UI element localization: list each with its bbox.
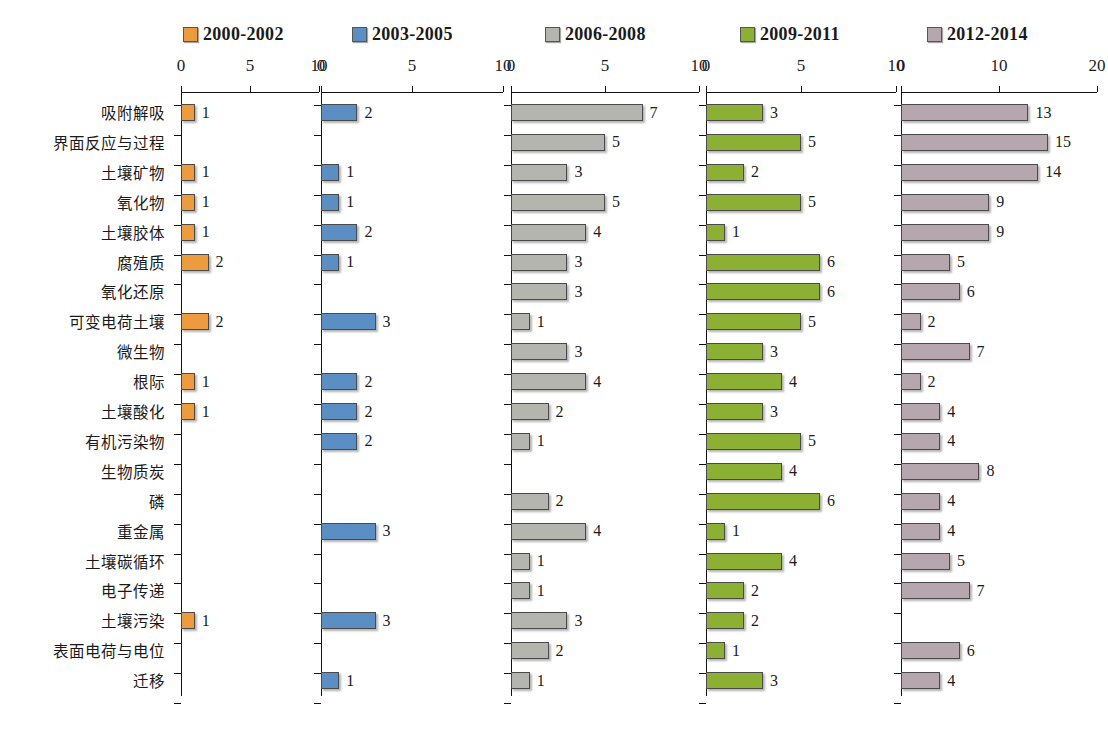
bar[interactable] xyxy=(181,104,195,121)
bar[interactable] xyxy=(511,373,586,390)
bar[interactable] xyxy=(181,373,195,390)
bar[interactable] xyxy=(511,642,549,659)
bar[interactable] xyxy=(511,523,586,540)
bar[interactable] xyxy=(901,343,970,360)
bar[interactable] xyxy=(706,582,744,599)
bar[interactable] xyxy=(511,254,567,271)
bar[interactable] xyxy=(511,194,605,211)
bar[interactable] xyxy=(321,104,357,121)
bar[interactable] xyxy=(511,403,549,420)
bar[interactable] xyxy=(706,343,763,360)
bar[interactable] xyxy=(706,642,725,659)
legend-item-2006-2008[interactable]: 2006-2008 xyxy=(545,24,646,45)
bar[interactable] xyxy=(706,373,782,390)
bar[interactable] xyxy=(181,403,195,420)
bar[interactable] xyxy=(706,403,763,420)
bar[interactable] xyxy=(706,313,801,330)
bar[interactable] xyxy=(706,104,763,121)
legend-item-2003-2005[interactable]: 2003-2005 xyxy=(352,24,453,45)
bar[interactable] xyxy=(511,224,586,241)
bar[interactable] xyxy=(181,224,195,241)
bar[interactable] xyxy=(511,164,567,181)
bar[interactable] xyxy=(706,194,801,211)
bar[interactable] xyxy=(901,403,940,420)
bar[interactable] xyxy=(181,164,195,181)
y-axis-tick xyxy=(174,195,181,196)
bar[interactable] xyxy=(511,104,643,121)
bar[interactable] xyxy=(706,523,725,540)
bar[interactable] xyxy=(321,672,339,689)
bar[interactable] xyxy=(511,343,567,360)
bar[interactable] xyxy=(901,283,960,300)
bar[interactable] xyxy=(901,553,950,570)
bar[interactable] xyxy=(181,612,195,629)
bar[interactable] xyxy=(901,433,940,450)
bar[interactable] xyxy=(321,224,357,241)
bar[interactable] xyxy=(901,373,921,390)
bar[interactable] xyxy=(706,134,801,151)
bar-value-label: 3 xyxy=(574,612,582,630)
bar[interactable] xyxy=(511,433,530,450)
bar-value-label: 6 xyxy=(967,642,975,660)
bar[interactable] xyxy=(321,194,339,211)
bar[interactable] xyxy=(901,134,1048,151)
bar[interactable] xyxy=(901,463,979,480)
bar[interactable] xyxy=(321,523,376,540)
bar[interactable] xyxy=(901,224,989,241)
y-axis-tick xyxy=(504,404,511,405)
bar[interactable] xyxy=(706,672,763,689)
bar[interactable] xyxy=(901,104,1028,121)
bar[interactable] xyxy=(321,403,357,420)
x-axis-tick xyxy=(1097,86,1098,92)
bar[interactable] xyxy=(511,553,530,570)
bar[interactable] xyxy=(901,194,989,211)
y-axis-tick xyxy=(504,673,511,674)
bar[interactable] xyxy=(511,283,567,300)
bar[interactable] xyxy=(321,313,376,330)
bar[interactable] xyxy=(321,373,357,390)
x-axis-tick xyxy=(321,86,322,92)
bar[interactable] xyxy=(511,582,530,599)
bar[interactable] xyxy=(706,224,725,241)
bar[interactable] xyxy=(321,612,376,629)
bar[interactable] xyxy=(511,313,530,330)
bar[interactable] xyxy=(901,642,960,659)
bar[interactable] xyxy=(901,164,1038,181)
bar[interactable] xyxy=(321,433,357,450)
bar[interactable] xyxy=(181,254,209,271)
legend-item-2012-2014[interactable]: 2012-2014 xyxy=(927,24,1028,45)
bar[interactable] xyxy=(511,134,605,151)
y-axis-tick xyxy=(699,494,706,495)
bar[interactable] xyxy=(511,672,530,689)
bar[interactable] xyxy=(901,582,970,599)
bar[interactable] xyxy=(181,313,209,330)
bar[interactable] xyxy=(706,612,744,629)
legend-item-2000-2002[interactable]: 2000-2002 xyxy=(183,24,284,45)
bar[interactable] xyxy=(511,493,549,510)
bar[interactable] xyxy=(901,313,921,330)
bar[interactable] xyxy=(706,433,801,450)
y-axis-tick xyxy=(699,135,706,136)
legend-item-2009-2011[interactable]: 2009-2011 xyxy=(740,24,840,45)
bar[interactable] xyxy=(706,283,820,300)
bar[interactable] xyxy=(901,254,950,271)
bar[interactable] xyxy=(321,164,339,181)
y-axis-tick xyxy=(314,225,321,226)
bar[interactable] xyxy=(706,463,782,480)
x-axis-tick-labels-row: 051005100510051001020 xyxy=(0,56,1108,78)
bar[interactable] xyxy=(181,194,195,211)
bar[interactable] xyxy=(321,254,339,271)
bar-value-label: 5 xyxy=(957,552,965,570)
bar-row: 3 xyxy=(706,672,896,689)
bar-row: 15 xyxy=(901,134,1097,151)
bar[interactable] xyxy=(706,553,782,570)
bar[interactable] xyxy=(901,523,940,540)
bar[interactable] xyxy=(706,164,744,181)
bar[interactable] xyxy=(706,493,820,510)
bar[interactable] xyxy=(901,493,940,510)
bar-value-label: 6 xyxy=(827,283,835,301)
bar[interactable] xyxy=(511,612,567,629)
bar[interactable] xyxy=(901,672,940,689)
bar-row: 1 xyxy=(511,672,699,689)
bar[interactable] xyxy=(706,254,820,271)
